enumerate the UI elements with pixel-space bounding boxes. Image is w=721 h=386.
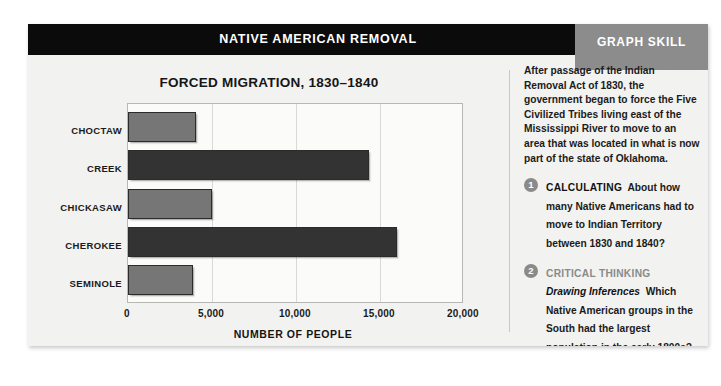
xtick-10000: 10,000 bbox=[265, 308, 325, 319]
xtick-20000: 20,000 bbox=[433, 308, 493, 319]
category-label-choctaw: CHOCTAW bbox=[32, 124, 122, 138]
page-title: NATIVE AMERICAN REMOVAL bbox=[28, 24, 608, 55]
category-label-chickasaw: CHICKASAW bbox=[32, 201, 122, 215]
bar-cherokee bbox=[128, 227, 397, 257]
question-item-1: 1 CALCULATING About how many Native Amer… bbox=[524, 177, 700, 251]
bar-choctaw bbox=[128, 112, 196, 142]
category-label-cherokee: CHEROKEE bbox=[32, 239, 122, 253]
xtick-0: 0 bbox=[97, 308, 157, 319]
gridline-5000 bbox=[212, 104, 213, 302]
bar-creek bbox=[128, 150, 369, 180]
question-body-1: CALCULATING About how many Native Americ… bbox=[546, 182, 694, 249]
page-root: NATIVE AMERICAN REMOVAL GRAPH SKILL FORC… bbox=[0, 0, 721, 386]
chart-title: FORCED MIGRATION, 1830–1840 bbox=[44, 70, 494, 96]
chart-plot-area bbox=[127, 103, 463, 303]
category-label-seminole: SEMINOLE bbox=[32, 277, 122, 291]
xtick-15000: 15,000 bbox=[349, 308, 409, 319]
question-number-1: 1 bbox=[524, 178, 538, 192]
question-item-2: 2 CRITICAL THINKINGDrawing Inferences Wh… bbox=[524, 263, 700, 346]
question-label-1: CALCULATING bbox=[546, 182, 622, 193]
sidebar-panel: After passage of the Indian Removal Act … bbox=[524, 64, 700, 334]
question-subtitle-2: Drawing Inferences bbox=[546, 286, 640, 297]
graph-skill-badge-label: GRAPH SKILL bbox=[575, 33, 708, 51]
gridline-15000 bbox=[380, 104, 381, 302]
gridline-10000 bbox=[296, 104, 297, 302]
question-label-2: CRITICAL THINKING bbox=[546, 268, 651, 279]
bar-seminole bbox=[128, 265, 193, 295]
question-body-2: CRITICAL THINKINGDrawing Inferences Whic… bbox=[546, 268, 693, 346]
sidebar-intro-text: After passage of the Indian Removal Act … bbox=[524, 64, 700, 166]
question-number-2: 2 bbox=[524, 264, 538, 278]
panel-divider bbox=[509, 70, 510, 332]
xtick-5000: 5,000 bbox=[181, 308, 241, 319]
x-axis-title: NUMBER OF PEOPLE bbox=[68, 328, 518, 340]
category-label-creek: CREEK bbox=[32, 162, 122, 176]
bar-chickasaw bbox=[128, 189, 212, 219]
graph-skill-card: NATIVE AMERICAN REMOVAL GRAPH SKILL FORC… bbox=[28, 24, 708, 346]
